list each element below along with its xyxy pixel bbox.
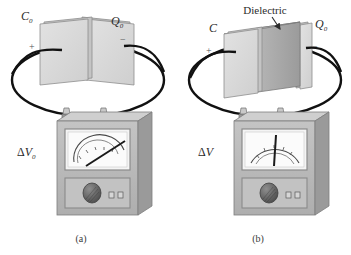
meter-top-face-b: [234, 112, 329, 121]
panel-a-plus-sign: +: [29, 41, 35, 52]
meter-dial-a: [65, 129, 130, 170]
meter-button-1-b[interactable]: [286, 192, 291, 198]
meter-side-face-a: [138, 112, 152, 215]
voltmeter-b[interactable]: [234, 108, 329, 215]
meter-button-2-a[interactable]: [118, 192, 123, 198]
meter-button-2-b[interactable]: [295, 192, 300, 198]
dielectric-label-b: Dielectric: [243, 4, 286, 16]
meter-button-1-a[interactable]: [109, 192, 114, 198]
meter-control-panel-b[interactable]: [242, 178, 307, 208]
panel-a-minus-sign: −: [120, 34, 126, 45]
meter-side-face-b: [315, 112, 329, 215]
voltmeter-a[interactable]: [57, 108, 152, 215]
meter-top-face-a: [57, 112, 152, 121]
meter-control-panel-a[interactable]: [65, 178, 130, 208]
panel-b-minus-sign: −: [312, 41, 318, 52]
meter-dial-b: [242, 129, 307, 170]
panel-b-voltage-label: ΔV: [198, 145, 215, 159]
panel-b-capacitance-label: C: [209, 21, 218, 35]
capacitor-dielectric-figure: C0 Q0 + −: [0, 0, 351, 255]
panel-a-caption: (a): [75, 233, 86, 245]
panel-b-caption: (b): [252, 233, 264, 245]
capacitor-plate-front-a: [40, 17, 92, 85]
panel-b-plus-sign: +: [206, 45, 212, 56]
capacitor-plate-front-b: [224, 27, 262, 98]
